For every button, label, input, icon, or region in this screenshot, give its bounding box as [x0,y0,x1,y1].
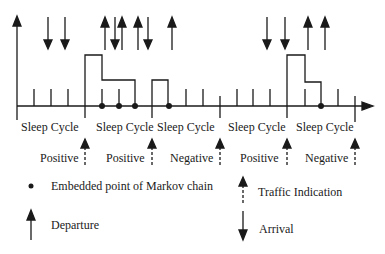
queue-step-1 [85,55,135,106]
cycle-label-4: Sleep Cycle [228,120,286,134]
y-axis-arrowhead-icon [13,16,21,26]
cycle-label-1: Sleep Cycle [21,120,79,134]
indication-label-5: Negative [305,151,348,165]
departure-arrows [101,17,329,50]
cycle-label-2: Sleep Cycle [96,120,154,134]
slot-ticks [34,89,338,106]
legend-departure-label: Departure [51,218,99,232]
cycle-boundaries [85,96,355,122]
x-axis-arrowhead-icon [362,102,373,110]
legend-traffic-indication-arrow-icon [239,177,247,203]
indication-label-1: Positive [40,151,79,165]
indication-label-3: Negative [170,151,213,165]
cycle-label-5: Sleep Cycle [296,120,354,134]
indication-label-4: Positive [240,151,279,165]
legend-departure-arrow-icon [27,210,35,240]
legend-arrival-label: Arrival [259,222,294,236]
legend-dot-icon [29,184,34,189]
legend-embedded-point-label: Embedded point of Markov chain [51,179,213,193]
legend-traffic-indication-label: Traffic Indication [258,185,342,199]
arrival-arrows [44,17,289,49]
indication-label-2: Positive [106,151,145,165]
cycle-label-3: Sleep Cycle [157,120,215,134]
queue-step-2 [152,80,168,106]
legend-arrival-arrow-icon [239,211,247,240]
queue-step-3 [287,55,321,106]
